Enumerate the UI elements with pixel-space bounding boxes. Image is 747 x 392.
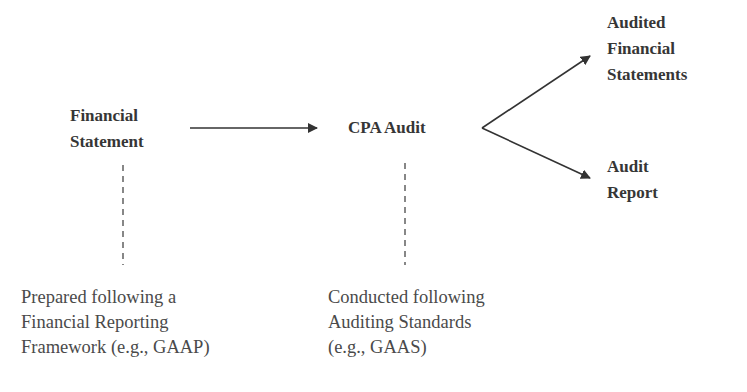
note-framework: Prepared following a Financial Reporting… <box>21 285 210 360</box>
note-line: Financial Reporting <box>21 310 210 335</box>
node-label-line: Statement <box>70 129 144 155</box>
node-label-line: Report <box>607 180 658 206</box>
note-line: Prepared following a <box>21 285 210 310</box>
note-line: (e.g., GAAS) <box>328 335 485 360</box>
note-line: Framework (e.g., GAAP) <box>21 335 210 360</box>
node-audit-report: Audit Report <box>607 154 658 206</box>
node-audited-financial-statements: Audited Financial Statements <box>607 10 687 88</box>
node-label-line: Statements <box>607 62 687 88</box>
arrow-audit-to-audited-statements <box>482 56 590 128</box>
node-label-line: Audited <box>607 10 687 36</box>
arrow-audit-to-report <box>482 128 590 178</box>
node-label-line: Audit <box>607 154 658 180</box>
note-line: Conducted following <box>328 285 485 310</box>
note-line: Auditing Standards <box>328 310 485 335</box>
node-label-line: Financial <box>70 103 144 129</box>
node-financial-statement: Financial Statement <box>70 103 144 155</box>
node-label-line: CPA Audit <box>348 115 426 141</box>
node-cpa-audit: CPA Audit <box>348 115 426 141</box>
note-standards: Conducted following Auditing Standards (… <box>328 285 485 360</box>
node-label-line: Financial <box>607 36 687 62</box>
